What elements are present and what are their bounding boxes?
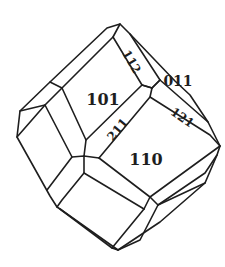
face-211-edge <box>142 85 152 88</box>
face-label-011: 011 <box>163 73 192 89</box>
face-label-110: 110 <box>129 150 162 169</box>
face-121-edge <box>152 80 160 88</box>
edge <box>57 156 84 207</box>
edge <box>60 209 112 248</box>
edge <box>45 105 72 190</box>
face-label-112: 112 <box>119 47 144 76</box>
face-label-211: 211 <box>104 116 131 144</box>
crystal-diagram: 101 110 211 112 011 121 <box>0 0 225 267</box>
edge <box>72 156 99 158</box>
edge <box>50 24 120 88</box>
edge <box>84 173 144 209</box>
face-label-101: 101 <box>86 90 119 109</box>
